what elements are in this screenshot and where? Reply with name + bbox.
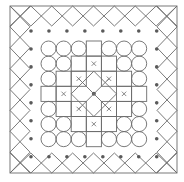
circle-motif [117, 41, 132, 56]
dot [155, 29, 159, 33]
frame-outer-border [10, 6, 177, 173]
dot [29, 29, 33, 33]
dot [101, 29, 105, 33]
square-motif [117, 71, 132, 86]
circle-motif [132, 117, 147, 132]
circle-motif [101, 132, 116, 147]
dot [155, 119, 159, 123]
dot [155, 47, 159, 51]
dot [83, 155, 87, 159]
dot [155, 101, 159, 105]
dot [29, 137, 33, 141]
circle-motif [117, 117, 132, 132]
dot [29, 47, 33, 51]
circle-motif [132, 41, 147, 56]
circle-motif [56, 132, 71, 147]
pattern-figure [0, 0, 184, 182]
square-motif [56, 101, 71, 116]
dot [29, 83, 33, 87]
dot [155, 83, 159, 87]
dot [137, 29, 141, 33]
dot [155, 155, 159, 159]
dot [47, 29, 51, 33]
circle-motif [41, 132, 56, 147]
dot [155, 65, 159, 69]
square-motif [71, 56, 86, 71]
lattice-frame [10, 6, 177, 173]
square-motif [41, 86, 56, 101]
circle-motif [117, 132, 132, 147]
circle-motif [41, 41, 56, 56]
circle-motif [71, 41, 86, 56]
dot [83, 29, 87, 33]
circle-motif [56, 41, 71, 56]
circle-motif [56, 117, 71, 132]
dot [119, 29, 123, 33]
circle-motif [132, 132, 147, 147]
dot [29, 155, 33, 159]
dot [101, 155, 105, 159]
circle-motif [101, 41, 116, 56]
pattern-svg [0, 0, 184, 182]
dot [119, 155, 123, 159]
circle-motif [41, 101, 56, 116]
square-motif [86, 41, 101, 56]
circle-motif [41, 56, 56, 71]
square-motif [101, 56, 116, 71]
dot [29, 101, 33, 105]
dot [47, 155, 51, 159]
dot [65, 155, 69, 159]
square-motif [56, 71, 71, 86]
circle-motif [132, 101, 147, 116]
circle-motif [41, 117, 56, 132]
dot [29, 119, 33, 123]
square-motif [117, 101, 132, 116]
square-motif [132, 86, 147, 101]
dot [137, 155, 141, 159]
circle-motif [117, 56, 132, 71]
square-motif [101, 117, 116, 132]
motif-grid [41, 41, 147, 147]
circle-motif [71, 132, 86, 147]
square-motif [71, 117, 86, 132]
dot [155, 137, 159, 141]
circle-motif [56, 56, 71, 71]
circle-motif [132, 71, 147, 86]
dot [65, 29, 69, 33]
circle-motif [41, 71, 56, 86]
dot [29, 65, 33, 69]
square-motif [86, 132, 101, 147]
circle-motif [132, 56, 147, 71]
